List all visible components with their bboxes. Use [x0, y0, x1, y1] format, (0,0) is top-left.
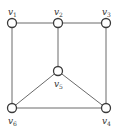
edge-v5-v4 [58, 71, 106, 108]
nodes-group [8, 19, 111, 113]
node-v3 [102, 19, 111, 28]
label-v6: v6 [8, 116, 17, 127]
label-v3: v3 [102, 7, 111, 18]
node-v2 [54, 19, 63, 28]
label-v5: v5 [54, 79, 63, 90]
graph-diagram: v1v2v3v5v6v4 [0, 0, 116, 131]
label-v2: v2 [54, 7, 63, 18]
node-v4 [102, 104, 111, 113]
node-v5 [54, 67, 63, 76]
label-v4: v4 [102, 116, 111, 127]
edge-v5-v6 [12, 71, 58, 108]
node-v1 [8, 19, 17, 28]
node-v6 [8, 104, 17, 113]
label-v1: v1 [8, 7, 17, 18]
edges-group [12, 23, 106, 108]
